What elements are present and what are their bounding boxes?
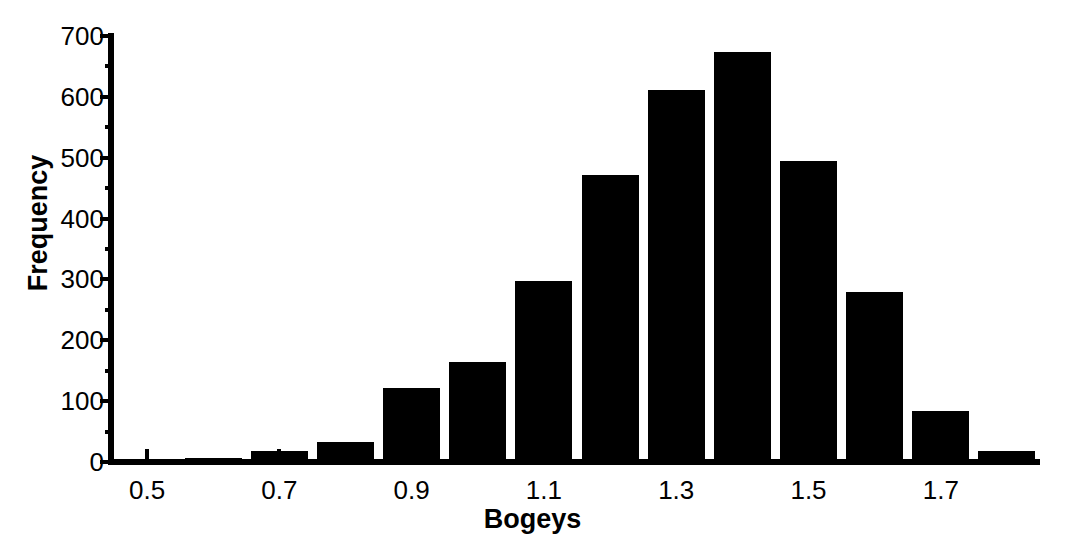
y-tick-label: 700	[30, 23, 104, 49]
y-tick-minor	[105, 308, 114, 312]
y-tick-major	[100, 399, 114, 403]
x-tick-label: 0.5	[92, 476, 202, 504]
histogram-bar	[383, 388, 440, 462]
y-tick-major	[100, 217, 114, 221]
y-tick-minor	[105, 186, 114, 190]
histogram-bar	[251, 451, 308, 462]
x-tick-label: 1.3	[621, 476, 731, 504]
y-tick-minor	[105, 430, 114, 434]
histogram-bar	[119, 460, 176, 462]
histogram-bar	[317, 442, 374, 462]
y-tick-label: 400	[30, 206, 104, 232]
x-axis-title: Bogeys	[0, 503, 1065, 535]
y-tick-label: 100	[30, 388, 104, 414]
histogram-bar	[185, 458, 242, 462]
y-tick-label: 0	[30, 449, 104, 475]
y-axis-tick-labels: 0100200300400500600700	[22, 0, 104, 555]
x-tick-label: 0.9	[357, 476, 467, 504]
histogram-bar	[449, 362, 506, 462]
y-tick-minor	[105, 247, 114, 251]
y-tick-major	[100, 277, 114, 281]
y-tick-minor	[105, 125, 114, 129]
y-tick-label: 300	[30, 266, 104, 292]
y-tick-major	[100, 95, 114, 99]
y-tick-label: 200	[30, 327, 104, 353]
x-tick-label: 1.7	[886, 476, 996, 504]
y-tick-major	[100, 460, 114, 464]
y-tick-major	[100, 156, 114, 160]
y-tick-minor	[105, 369, 114, 373]
histogram-bar	[780, 161, 837, 462]
x-axis-tick-labels: 0.50.70.91.11.31.51.7	[114, 466, 1040, 506]
x-axis-ticks	[114, 462, 1040, 463]
x-tick-label: 0.7	[224, 476, 334, 504]
y-tick-major	[100, 34, 114, 38]
x-tick-label: 1.5	[754, 476, 864, 504]
histogram-figure: Frequency 0100200300400500600700 0.50.70…	[0, 0, 1065, 555]
histogram-bar	[978, 451, 1035, 462]
histogram-bar	[582, 175, 639, 462]
plot-area	[114, 36, 1040, 462]
histogram-bar	[912, 411, 969, 462]
histogram-bar	[515, 281, 572, 462]
y-tick-label: 600	[30, 84, 104, 110]
x-tick-label: 1.1	[489, 476, 599, 504]
histogram-bar	[846, 292, 903, 462]
histogram-bar	[648, 90, 705, 462]
histogram-bar	[714, 52, 771, 462]
y-tick-label: 500	[30, 145, 104, 171]
y-tick-minor	[105, 64, 114, 68]
y-tick-major	[100, 338, 114, 342]
